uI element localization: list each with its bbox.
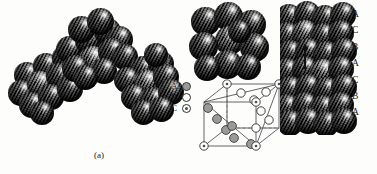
stack-letter: C (352, 22, 374, 38)
legend-label-c: C (171, 103, 182, 114)
plane-atom-filled (230, 134, 239, 143)
figure-close-packed-structures: (a) A B C (0, 0, 377, 174)
sphere (144, 43, 168, 67)
panel-a-hcp-clusters: (a) (0, 0, 180, 145)
stack-letter: B (352, 39, 374, 55)
plane-atom-filled (228, 122, 237, 131)
fcc-unit-cell (194, 78, 289, 153)
stack-letter: A (352, 6, 374, 22)
plane-atom-filled (213, 115, 222, 124)
panel-b-fcc: (b) (188, 0, 358, 160)
sphere (228, 20, 251, 43)
face-atom-open (237, 89, 245, 97)
stack-letter: A (352, 104, 374, 120)
sphere (73, 65, 98, 90)
stack-letter: C (352, 72, 374, 88)
legend-label-a: A (171, 81, 182, 92)
stack-letter: B (352, 88, 374, 104)
legend-label-b: B (171, 92, 182, 103)
face-atom-open (262, 88, 270, 96)
caption-panel-a: (a) (94, 150, 104, 160)
abc-stacked-sphere-column (280, 0, 360, 135)
fcc-close-packed-cluster (188, 0, 278, 80)
sphere (235, 54, 261, 80)
face-atom-open (252, 124, 260, 132)
interstice-arrow-icon (298, 43, 312, 69)
fcc-unit-cell-svg (194, 78, 289, 153)
face-atom-open (257, 107, 265, 115)
stacking-sequence-labels: A C B A C B A (352, 6, 374, 121)
plane-atom-filled (204, 104, 213, 113)
face-atom-open (265, 116, 273, 124)
stack-letter: A (352, 55, 374, 71)
